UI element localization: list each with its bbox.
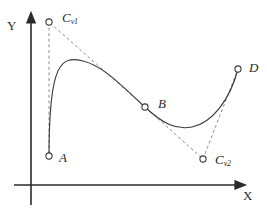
y-axis-label: Y — [7, 18, 16, 34]
point-label-cv1-base: C — [62, 10, 71, 25]
point-label-cv2-base: C — [215, 152, 224, 167]
point-label-cv2-subscript: v2 — [224, 159, 231, 168]
point-label-cv1-subscript: v1 — [71, 17, 78, 26]
spline-control-point-diagram — [0, 0, 267, 211]
point-marker-b[interactable] — [142, 104, 148, 110]
point-label-cv1: Cv1 — [62, 10, 78, 26]
point-label-a: A — [59, 150, 67, 166]
dashed-line-cv2-d — [203, 69, 238, 159]
point-label-cv2: Cv2 — [215, 152, 231, 168]
x-axis-label: X — [243, 188, 252, 204]
point-label-d: D — [249, 60, 258, 76]
point-marker-d[interactable] — [235, 66, 241, 72]
point-marker-a[interactable] — [46, 153, 52, 159]
point-label-b: B — [158, 96, 166, 112]
point-marker-cv2[interactable] — [200, 156, 206, 162]
curve-segment-a-b — [49, 60, 145, 156]
point-marker-cv1[interactable] — [46, 19, 52, 25]
